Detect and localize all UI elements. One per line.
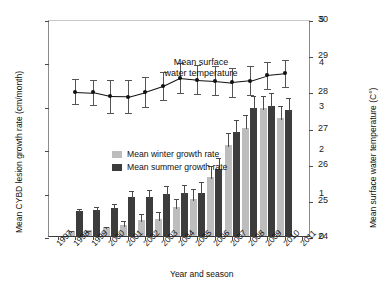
temperature-data-point [283,71,287,75]
temperature-errorbar-cap [194,94,201,95]
temperature-errorbar-cap [264,62,271,63]
temperature-errorbar-cap [72,79,79,80]
temperature-data-point [265,73,269,77]
temperature-errorbar-cap [212,95,219,96]
y-axis-right-tick [309,166,313,167]
y-axis-left-label: 3 [304,102,324,111]
chart-legend: Mean winter growth rate Mean summer grow… [112,149,227,175]
y-axis-left-tick [45,151,49,152]
legend-label-winter: Mean winter growth rate [127,149,219,159]
x-axis-title: Year and season [170,269,234,279]
temperature-annotation-line2: water temperature [141,68,261,79]
legend-swatch-summer [112,164,122,171]
temperature-errorbar-cap [90,105,97,106]
temperature-errorbar-cap [125,80,132,81]
temperature-data-point [91,90,95,94]
temperature-errorbar-cap [177,93,184,94]
temperature-errorbar-cap [72,104,79,105]
y-axis-left-tick [45,108,49,109]
legend-label-summer: Mean summer growth rate [127,162,227,172]
legend-item-winter: Mean winter growth rate [112,149,227,159]
y-axis-left-tick [45,238,49,239]
temperature-errorbar-cap [90,80,97,81]
temperature-line-segment [110,96,127,97]
temperature-errorbar-cap [160,100,167,101]
y-axis-right-label: 29 [318,51,340,60]
y-axis-right-tick [309,93,313,94]
temperature-errorbar-cap [142,107,149,108]
y-axis-right-tick [309,202,313,203]
y-axis-right-tick [309,130,313,131]
temperature-data-point [230,80,234,84]
y-axis-right-label: 28 [318,87,340,96]
y-axis-right-label: 24 [318,232,340,241]
temperature-errorbar-cap [107,113,114,114]
temperature-line-segment [145,86,163,93]
temperature-errorbar-cap [247,95,254,96]
y-axis-left-tick [45,64,49,65]
temperature-errorbar-cap [107,80,114,81]
y-axis-right-label: 27 [318,124,340,133]
legend-item-summer: Mean summer growth rate [112,162,227,172]
y-axis-right-label: 30 [318,15,340,24]
temperature-data-point [108,94,112,98]
temperature-errorbar-cap [282,87,289,88]
chart-figure: Mean CYBD lesion growth rate (cm/month) … [0,0,378,283]
y-axis-left-tick [45,195,49,196]
temperature-data-point [126,95,130,99]
y-axis-right-label: 25 [318,196,340,205]
temperature-annotation: Mean surface water temperature [141,57,261,79]
temperature-annotation-line1: Mean surface [141,57,261,68]
temperature-errorbar-cap [282,60,289,61]
y-axis-right-title: Mean surface water temperature (C°) [368,88,378,228]
plot-area: Mean surface water temperature Mean wint… [48,20,310,237]
y-axis-left-title: Mean CYBD lesion growth rate (cm/month) [14,71,24,233]
y-axis-left-label: 2 [304,145,324,154]
legend-swatch-winter [112,151,122,158]
y-axis-left-tick [45,21,49,22]
temperature-data-point [73,90,77,94]
y-axis-right-label: 26 [318,160,340,169]
temperature-errorbar-cap [264,89,271,90]
temperature-data-point [248,79,252,83]
temperature-data-point [143,90,147,94]
temperature-data-point [161,84,165,88]
temperature-errorbar-cap [229,97,236,98]
temperature-errorbar-cap [125,113,132,114]
temperature-data-point [213,79,217,83]
temperature-line-layer [49,21,309,236]
